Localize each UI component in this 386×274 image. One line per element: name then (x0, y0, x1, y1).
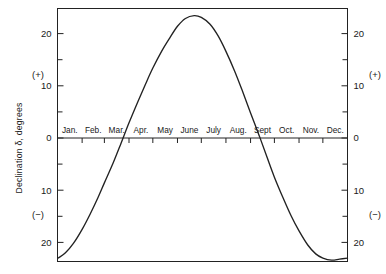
month-label-mar: Mar. (109, 125, 125, 135)
month-label-apr: Apr. (134, 125, 149, 135)
chart-canvas: 201001020 201001020 Jan.Feb.Mar.Apr.MayJ… (0, 0, 386, 274)
left-negative-sign-label: (−) (32, 209, 44, 220)
y-tick-label-left: 0 (46, 132, 51, 143)
month-label-jan: Jan. (62, 125, 78, 135)
month-label-dec: Dec. (327, 125, 344, 135)
month-label-aug: Aug. (230, 125, 247, 135)
declination-chart: 201001020 201001020 Jan.Feb.Mar.Apr.MayJ… (0, 0, 386, 274)
right-negative-sign-label: (−) (369, 209, 381, 220)
y-tick-label-left: 20 (41, 28, 52, 39)
month-label-may: May (157, 125, 174, 135)
y-axis-title: Declination δ, degrees (14, 102, 24, 193)
month-label-feb: Feb. (85, 125, 102, 135)
month-label-june: June (180, 125, 198, 135)
month-label-july: July (206, 125, 222, 135)
y-tick-label-right: 10 (354, 185, 365, 196)
y-tick-label-right: 20 (354, 237, 365, 248)
left-positive-sign-label: (+) (32, 69, 44, 80)
y-tick-label-right: 0 (354, 132, 359, 143)
month-label-oct: Oct. (279, 125, 294, 135)
month-label-nov: Nov. (303, 125, 319, 135)
y-tick-label-left: 10 (41, 80, 52, 91)
y-tick-label-right: 10 (354, 80, 365, 91)
y-tick-label-left: 10 (41, 185, 52, 196)
y-tick-label-right: 20 (354, 28, 365, 39)
right-positive-sign-label: (+) (369, 69, 381, 80)
y-tick-label-left: 20 (41, 237, 52, 248)
